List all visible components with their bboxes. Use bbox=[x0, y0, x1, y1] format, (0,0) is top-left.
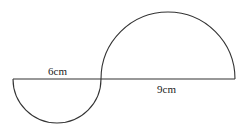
large-semicircle bbox=[101, 12, 235, 79]
large-diameter-label: 9cm bbox=[157, 83, 176, 95]
small-semicircle bbox=[13, 79, 101, 123]
small-diameter-label: 6cm bbox=[48, 65, 67, 77]
semicircle-diagram: 6cm 9cm bbox=[0, 0, 245, 130]
